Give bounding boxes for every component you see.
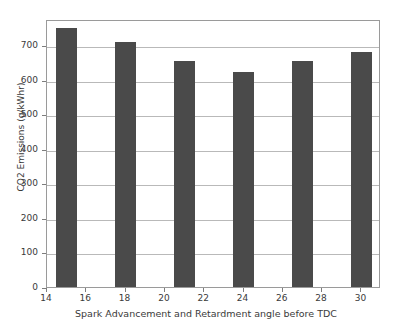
plot-area — [46, 20, 380, 288]
bar — [351, 52, 373, 287]
gridline — [47, 220, 379, 221]
x-tick-mark — [243, 288, 244, 292]
bar — [174, 61, 196, 287]
x-tick-label: 26 — [267, 293, 297, 303]
bar — [56, 28, 78, 287]
y-tick-label: 300 — [4, 179, 38, 188]
x-tick-label: 20 — [149, 293, 179, 303]
x-tick-mark — [46, 288, 47, 292]
x-tick-label: 22 — [188, 293, 218, 303]
y-tick-label: 100 — [4, 248, 38, 257]
x-axis-tick-group: 141618202224262830 — [46, 288, 380, 306]
y-tick-label: 500 — [4, 110, 38, 119]
y-tick-label: 600 — [4, 76, 38, 85]
gridline — [47, 47, 379, 48]
y-axis-tick-group: 0100200300400500600700 — [0, 20, 46, 288]
x-tick-mark — [164, 288, 165, 292]
y-tick-label: 400 — [4, 145, 38, 154]
x-tick-mark — [282, 288, 283, 292]
y-tick-label: 700 — [4, 41, 38, 50]
x-tick-label: 14 — [31, 293, 61, 303]
gridline — [47, 82, 379, 83]
y-tick-label: 0 — [4, 283, 38, 292]
gridline — [47, 151, 379, 152]
bar — [292, 61, 314, 287]
x-axis-title: Spark Advancement and Retardment angle b… — [0, 308, 412, 319]
x-tick-label: 28 — [306, 293, 336, 303]
gridline — [47, 185, 379, 186]
x-tick-mark — [125, 288, 126, 292]
x-tick-mark — [203, 288, 204, 292]
bar — [233, 72, 255, 287]
x-tick-label: 30 — [345, 293, 375, 303]
x-tick-mark — [321, 288, 322, 292]
x-tick-mark — [85, 288, 86, 292]
bar-chart-figure: CO2 Emissions (g/kWhr) 01002003004005006… — [0, 0, 412, 330]
bar — [115, 42, 137, 287]
y-tick-label: 200 — [4, 214, 38, 223]
x-tick-label: 18 — [110, 293, 140, 303]
x-tick-label: 16 — [70, 293, 100, 303]
gridline — [47, 116, 379, 117]
x-tick-label: 24 — [228, 293, 258, 303]
x-tick-mark — [360, 288, 361, 292]
gridline — [47, 254, 379, 255]
